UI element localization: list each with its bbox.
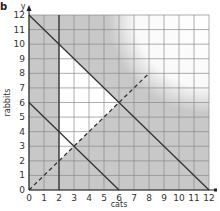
x-tick-label: 3 xyxy=(71,193,77,203)
chart: 01234567891011120123456789101112 b cats … xyxy=(0,0,220,211)
y-tick-label: 5 xyxy=(19,112,25,122)
x-tick-label: 8 xyxy=(146,193,152,203)
x-tick-label: 0 xyxy=(26,193,32,203)
y-tick-label: 9 xyxy=(19,54,25,64)
x-tick-label: 4 xyxy=(86,193,92,203)
panel-label: b xyxy=(0,1,7,12)
y-tick-label: 8 xyxy=(19,68,25,78)
x-tick-label: 2 xyxy=(56,193,62,203)
x-tick-label: 1 xyxy=(41,193,47,203)
y-tick-label: 12 xyxy=(14,10,25,20)
x-tick-label: 7 xyxy=(131,193,137,203)
x-tick-label: 11 xyxy=(188,193,199,203)
x-tick-label: 5 xyxy=(101,193,107,203)
x-tick-label: 12 xyxy=(203,193,214,203)
y-tick-label: 2 xyxy=(19,156,25,166)
y-tick-label: 1 xyxy=(19,170,25,180)
x-tick-label: 9 xyxy=(161,193,167,203)
y-tick-label: 4 xyxy=(19,127,25,137)
y-tick-label: 0 xyxy=(19,185,25,195)
y-tick-label: 6 xyxy=(19,98,25,108)
y-tick-label: 3 xyxy=(19,141,25,151)
x-axis-arrow-icon xyxy=(214,189,217,192)
y-tick-label: 7 xyxy=(19,83,25,93)
y-axis-label: rabbits xyxy=(3,89,12,117)
y-tick-label: 10 xyxy=(14,39,26,49)
y-axis-symbol: y xyxy=(21,2,26,11)
x-tick-label: 10 xyxy=(173,193,185,203)
y-tick-label: 11 xyxy=(14,25,25,35)
y-axis-arrow-icon xyxy=(27,5,32,11)
x-axis-label: cats xyxy=(111,200,128,209)
